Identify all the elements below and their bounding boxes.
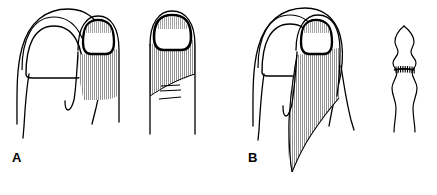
second-toe-hatched-flap [78,49,118,100]
figure-container: A [0,0,437,195]
panel-label-b: B [248,150,257,165]
panel-label-a: A [12,150,22,165]
medical-line-drawing: A [0,0,437,195]
